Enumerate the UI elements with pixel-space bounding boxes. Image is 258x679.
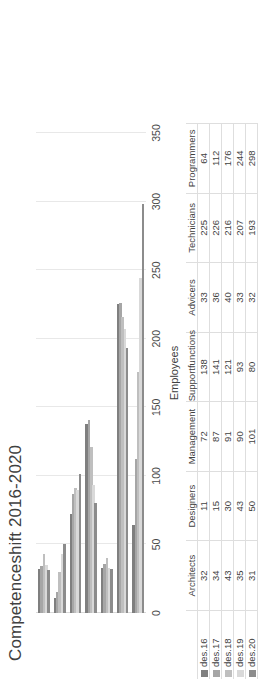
plot-area bbox=[36, 133, 146, 613]
legend-label: des.16 bbox=[198, 638, 209, 667]
axis-tick-label: 250 bbox=[150, 261, 162, 279]
bar-group bbox=[83, 133, 99, 613]
bar-group bbox=[115, 133, 131, 613]
table-cell: 32 bbox=[246, 263, 258, 333]
data-table: ArchitectsDesignersManagementSupportfunc… bbox=[186, 123, 258, 679]
bar-group bbox=[36, 133, 52, 613]
bar-group bbox=[130, 133, 146, 613]
legend-item[interactable]: des.18 bbox=[222, 611, 234, 679]
axis-tick-label: 200 bbox=[150, 330, 162, 348]
table-header-cell: Technicians bbox=[186, 193, 198, 263]
table-cell: 33 bbox=[198, 263, 210, 333]
axis-tick-label: 50 bbox=[150, 539, 162, 551]
legend-item[interactable]: des.20 bbox=[246, 611, 258, 679]
legend-swatch-icon bbox=[249, 670, 256, 677]
category-label: Technicians bbox=[186, 203, 197, 253]
table-cell: 50 bbox=[246, 471, 258, 541]
category-label: Management bbox=[186, 409, 197, 464]
table-header-cell: Supportfunctions bbox=[186, 332, 198, 402]
value-axis: 050100150200250300350 bbox=[148, 133, 170, 613]
table-cell: 15 bbox=[210, 471, 222, 541]
table-cell: 216 bbox=[222, 193, 234, 263]
legend-item[interactable]: des.17 bbox=[210, 611, 222, 679]
bar-groups bbox=[36, 133, 146, 613]
category-label: Advicers bbox=[186, 279, 197, 315]
table-cell: 121 bbox=[222, 332, 234, 402]
bar bbox=[142, 204, 145, 613]
table-cell: 138 bbox=[198, 332, 210, 402]
table-cell: 207 bbox=[234, 193, 246, 263]
table-cell: 141 bbox=[210, 332, 222, 402]
bar bbox=[79, 475, 82, 614]
bar bbox=[110, 569, 113, 613]
table-header-row: ArchitectsDesignersManagementSupportfunc… bbox=[186, 124, 198, 679]
table-cell: 33 bbox=[234, 263, 246, 333]
table-header-cell: Designers bbox=[186, 471, 198, 541]
bar-group bbox=[99, 133, 115, 613]
legend-label: des.19 bbox=[234, 638, 245, 667]
table-cell: 226 bbox=[210, 193, 222, 263]
chart-title: Competenceshift 2016-2020 bbox=[6, 445, 26, 661]
category-label: Architects bbox=[186, 555, 197, 597]
category-label: Programmers bbox=[186, 130, 197, 188]
table-cell: 43 bbox=[222, 541, 234, 611]
table-row: des.163211721383322564 bbox=[198, 124, 210, 679]
table-header-cell: Management bbox=[186, 402, 198, 472]
axis-tick-label: 100 bbox=[150, 467, 162, 485]
legend-swatch-icon bbox=[225, 670, 232, 677]
legend-label: des.17 bbox=[210, 638, 221, 667]
table-cell: 225 bbox=[198, 193, 210, 263]
table-cell: 80 bbox=[246, 332, 258, 402]
table-cell: 91 bbox=[222, 402, 234, 472]
table-cell: 40 bbox=[222, 263, 234, 333]
table-cell: 34 bbox=[210, 541, 222, 611]
table-cell: 193 bbox=[246, 193, 258, 263]
table-cell: 30 bbox=[222, 471, 234, 541]
axis-tick-label: 150 bbox=[150, 399, 162, 417]
table-cell: 64 bbox=[198, 124, 210, 194]
legend-swatch-icon bbox=[201, 670, 208, 677]
legend-swatch-icon bbox=[213, 670, 220, 677]
table-cell: 35 bbox=[234, 541, 246, 611]
table-row: des.1734158714136226112 bbox=[210, 124, 222, 679]
table-header-cell: Advicers bbox=[186, 263, 198, 333]
category-label: Designers bbox=[186, 485, 197, 528]
legend-label: des.20 bbox=[246, 638, 257, 667]
table-cell: 31 bbox=[246, 541, 258, 611]
table-cell: 93 bbox=[234, 332, 246, 402]
legend-item[interactable]: des.16 bbox=[198, 611, 210, 679]
table-cell: 90 bbox=[234, 402, 246, 472]
table-header-cell: Architects bbox=[186, 541, 198, 611]
table-header-cell: Programmers bbox=[186, 124, 198, 194]
bar-group bbox=[52, 133, 68, 613]
bar-group bbox=[67, 133, 83, 613]
category-label: Supportfunctions bbox=[186, 330, 197, 401]
table-cell: 36 bbox=[210, 263, 222, 333]
bar bbox=[47, 571, 50, 614]
bar bbox=[63, 544, 66, 613]
table-cell: 43 bbox=[234, 471, 246, 541]
bar bbox=[94, 503, 97, 613]
axis-title: Employees bbox=[168, 133, 180, 613]
table-cell: 87 bbox=[210, 402, 222, 472]
bar-chart: Competenceshift 2016-2020 05010015020025… bbox=[0, 0, 258, 679]
bar bbox=[126, 348, 129, 613]
table-cell: 298 bbox=[246, 124, 258, 194]
axis-tick-label: 300 bbox=[150, 193, 162, 211]
table-cell: 11 bbox=[198, 471, 210, 541]
axis-tick-label: 0 bbox=[150, 610, 162, 616]
table-row: des.1843309112140216176 bbox=[222, 124, 234, 679]
table-cell: 112 bbox=[210, 124, 222, 194]
chart-rotation-wrapper: Competenceshift 2016-2020 05010015020025… bbox=[0, 0, 258, 679]
table-row: des.193543909333207244 bbox=[234, 124, 246, 679]
table-cell: 244 bbox=[234, 124, 246, 194]
table-cell: 72 bbox=[198, 402, 210, 472]
table-row: des.2031501018032193298 bbox=[246, 124, 258, 679]
table-cell: 176 bbox=[222, 124, 234, 194]
table-cell: 32 bbox=[198, 541, 210, 611]
legend-item[interactable]: des.19 bbox=[234, 611, 246, 679]
table-cell: 101 bbox=[246, 402, 258, 472]
axis-tick-label: 350 bbox=[150, 124, 162, 142]
table-corner-cell bbox=[186, 611, 198, 679]
legend-swatch-icon bbox=[237, 670, 244, 677]
